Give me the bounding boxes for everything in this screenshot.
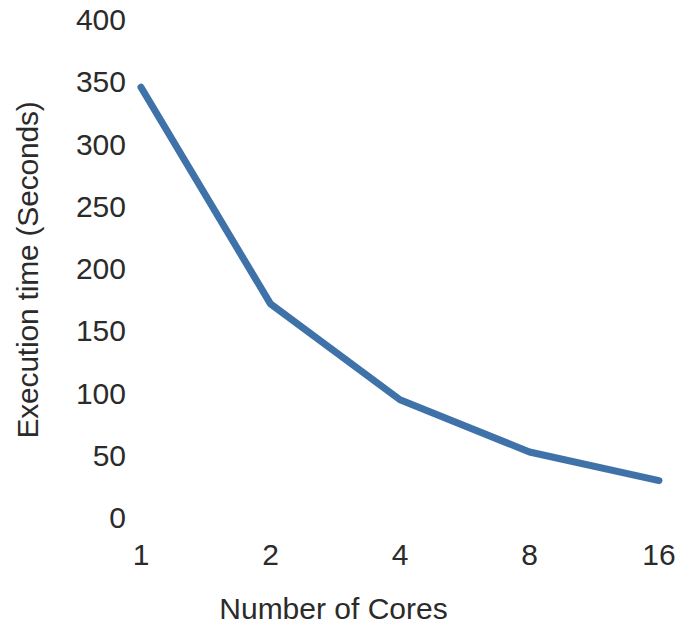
x-axis-tick-label: 2 bbox=[262, 540, 279, 570]
x-axis-tick-label: 4 bbox=[392, 540, 409, 570]
x-axis-tick-label: 8 bbox=[521, 540, 538, 570]
x-axis-tick-label: 16 bbox=[642, 540, 675, 570]
x-axis-title: Number of Cores bbox=[0, 592, 667, 626]
x-axis-title-label: Number of Cores bbox=[219, 592, 447, 625]
x-axis-tick-label: 1 bbox=[133, 540, 150, 570]
